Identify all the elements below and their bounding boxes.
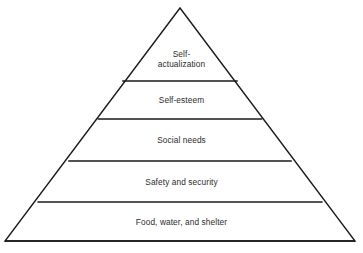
pyramid-outline-svg — [0, 0, 363, 253]
pyramid-diagram: Self- actualization Self-esteem Social n… — [0, 0, 363, 253]
pyramid-outline — [5, 8, 355, 241]
